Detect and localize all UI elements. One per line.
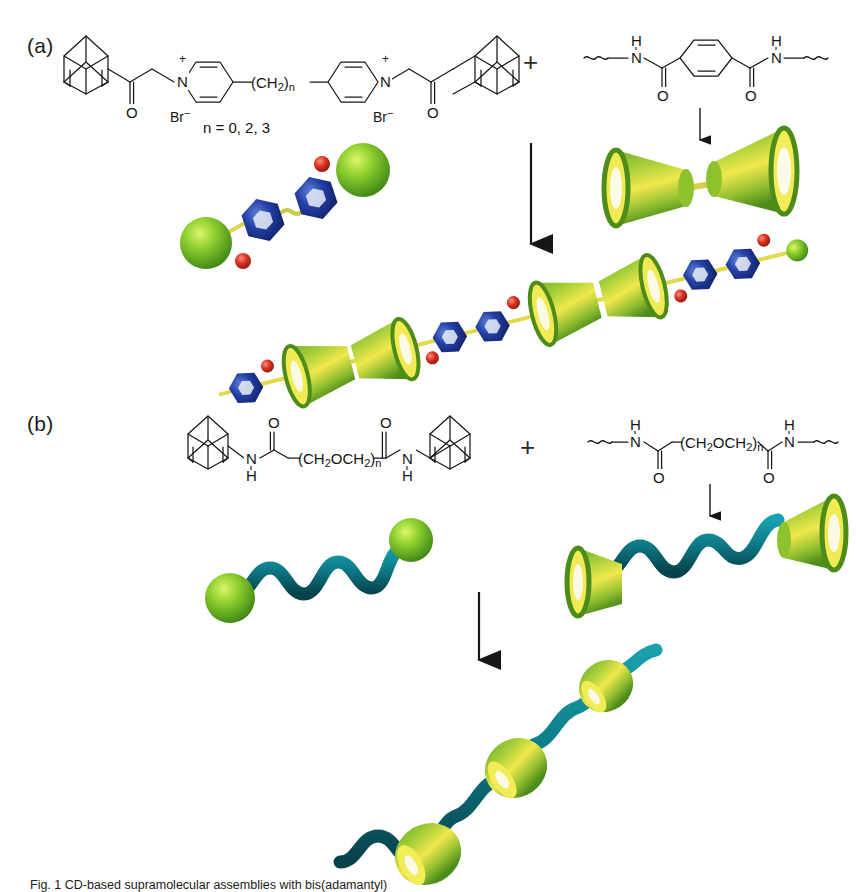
cyclodextrin-cone-left-b (567, 548, 622, 616)
host-amide-n-right-b: N (784, 433, 795, 450)
assembly-bromide-4 (673, 288, 689, 304)
pyridinium-hexagon-left (238, 193, 288, 247)
bromide-right: Br− (373, 107, 393, 125)
assembly-cd-bead-1 (384, 812, 472, 892)
assembly-bromide-1 (260, 358, 276, 374)
adamantyl-sphere-right-b (389, 518, 433, 562)
peg-chain-wave (236, 548, 402, 594)
carbonyl-o-right: O (427, 104, 439, 121)
panel-b-assembly-model (300, 640, 856, 880)
charge-plus-left: + (179, 52, 186, 66)
amide-o-right: O (745, 87, 757, 104)
assembly-terminal-sphere (784, 237, 811, 264)
host-amide-h-left-b: H (630, 416, 641, 433)
host-amide-o-right-b: O (763, 469, 775, 486)
carbonyl-o-right-b: O (380, 414, 392, 431)
panel-a-n-values: n = 0, 2, 3 (203, 119, 270, 136)
panel-a-host-structure: N H N H O O (576, 30, 838, 110)
bromide-left: Br− (170, 107, 190, 125)
amide-o-left: O (657, 87, 669, 104)
peg-chain-wave-b (606, 520, 778, 572)
assembly-bromide-2 (424, 350, 440, 366)
assembly-pyridinium-3 (471, 304, 514, 349)
bromide-ion-right (314, 156, 330, 172)
spacer-ch2n: (CH2)n (251, 74, 295, 93)
carbonyl-o-left: O (126, 104, 138, 121)
amide-h-left: H (631, 32, 642, 49)
cyclodextrin-cone-right (706, 128, 797, 214)
figure-caption: Fig. 1 CD-based supramolecular assemblie… (30, 878, 387, 892)
host-amide-o-left-b: O (653, 469, 665, 486)
peg-chain-label: (CH2OCH2)n (298, 450, 381, 469)
amide-n-right: N (771, 49, 782, 66)
host-amide-n-left-b: N (630, 433, 641, 450)
pyridinium-n-right: N (380, 73, 391, 90)
assembly-bromide-3 (506, 295, 522, 311)
panel-b-guest-structure: N H N H O O (CH2OCH2)n (178, 404, 478, 502)
panel-a-guest-structure: O O N N + + Br− Br− (CH2)n (52, 22, 522, 132)
host-peg-chain-label: (CH2OCH2)n (680, 434, 763, 453)
amide-n-right-b: N (402, 450, 413, 467)
panel-b-host-structure: N H N H O O (CH2OCH2)n (582, 412, 838, 492)
panel-a-host-model (608, 122, 808, 234)
carbonyl-o-left-b: O (268, 414, 280, 431)
charge-plus-right: + (382, 52, 389, 66)
adamantyl-sphere-right (336, 143, 390, 197)
panel-a-reaction-arrow (518, 143, 544, 258)
amide-h-right: H (771, 32, 782, 49)
amide-n-left-b: N (246, 450, 257, 467)
cyclodextrin-cone-left (604, 150, 694, 226)
assembly-pyridinium-4 (678, 252, 721, 297)
assembly-bromide-5 (756, 232, 772, 248)
panel-a-label: (a) (27, 34, 54, 58)
assembly-cyclodextrin-1 (279, 316, 424, 409)
panel-a-plus-operator: + (523, 49, 538, 75)
panel-b-plus-operator: + (520, 434, 535, 460)
host-amide-h-right-b: H (784, 416, 795, 433)
panel-a-assembly-model (170, 258, 850, 386)
cyclodextrin-cone-right-b (777, 496, 846, 570)
panel-b-label: (b) (27, 412, 54, 436)
pyridinium-hexagon-right (291, 171, 341, 225)
pyridinium-n-left: N (177, 73, 188, 90)
adamantyl-sphere-left-b (205, 573, 255, 623)
panel-b-guest-model (180, 518, 446, 620)
assembly-pyridinium-5 (721, 242, 764, 287)
panel-b-host-model (578, 496, 856, 616)
amide-n-left: N (631, 49, 642, 66)
panel-a-guest-model (150, 140, 402, 232)
